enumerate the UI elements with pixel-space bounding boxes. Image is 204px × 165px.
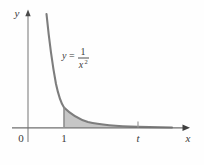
- x-tick-label-1: 1: [61, 132, 67, 144]
- y-axis-label: y: [14, 7, 20, 19]
- x-tick-label-t: t: [136, 132, 140, 144]
- equation-label: y = 1 x 2: [61, 46, 89, 70]
- equation-equals: =: [69, 50, 75, 61]
- y-axis-arrow-icon: [25, 10, 30, 17]
- figure-container: y x 0 1 t y = 1 x 2: [0, 0, 204, 165]
- equation-denominator-base: x: [78, 59, 84, 70]
- x-axis-label: x: [185, 132, 191, 144]
- equation-numerator: 1: [81, 46, 86, 57]
- x-axis-arrow-icon: [183, 125, 191, 131]
- graph-canvas: y x 0 1 t y = 1 x 2: [0, 0, 204, 165]
- equation-denominator-exponent: 2: [84, 58, 87, 65]
- origin-label: 0: [18, 132, 24, 144]
- equation-lhs: y: [61, 50, 67, 61]
